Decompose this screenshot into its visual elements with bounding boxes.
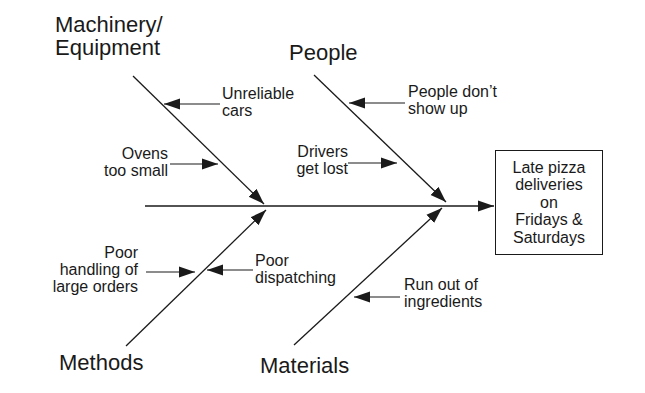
cause-text: cars [222, 103, 294, 120]
category-methods-label: Methods [59, 351, 143, 374]
cause-text: dispatching [255, 270, 336, 287]
category-machinery-line2: Equipment [55, 36, 163, 59]
methods-bone [126, 210, 266, 346]
cause-unreliable-cars: Unreliable cars [222, 86, 294, 120]
cause-poor-dispatching: Poor dispatching [255, 253, 336, 287]
category-materials-label: Materials [260, 354, 349, 377]
effect-box: Late pizza deliveries on Fridays & Satur… [495, 150, 603, 255]
cause-text: ingredients [404, 294, 482, 311]
cause-text: too small [86, 163, 168, 180]
category-machinery-line1: Machinery/ [55, 13, 163, 36]
cause-text: Poor [20, 245, 138, 262]
cause-text: large orders [20, 279, 138, 296]
cause-run-out-of-ingredients: Run out of ingredients [404, 277, 482, 311]
category-machinery-label: Machinery/ Equipment [55, 13, 163, 59]
cause-poor-handling-large-orders: Poor handling of large orders [20, 245, 138, 295]
cause-text: Unreliable [222, 86, 294, 103]
cause-text: Run out of [404, 277, 482, 294]
cause-text: show up [408, 101, 497, 118]
cause-text: get lost [270, 161, 348, 178]
cause-text: Drivers [270, 144, 348, 161]
category-people-label: People [289, 41, 358, 64]
cause-text: handling of [20, 262, 138, 279]
cause-ovens-too-small: Ovens too small [86, 146, 168, 180]
cause-text: Ovens [86, 146, 168, 163]
cause-people-dont-show-up: People don’t show up [408, 84, 497, 118]
cause-drivers-get-lost: Drivers get lost [270, 144, 348, 178]
effect-text: Late pizza deliveries on Fridays & Satur… [513, 159, 586, 247]
cause-text: People don’t [408, 84, 497, 101]
cause-text: Poor [255, 253, 336, 270]
